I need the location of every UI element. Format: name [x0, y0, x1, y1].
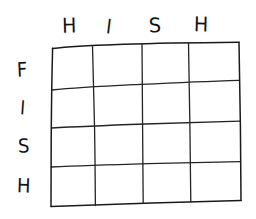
grid-cell-r4c4[interactable] — [191, 162, 240, 201]
grid-cell-r3c2[interactable] — [95, 127, 142, 165]
grid-cell-r3c1[interactable] — [52, 128, 94, 167]
puzzle-grid — [0, 0, 256, 219]
grid-cell-r1c3[interactable] — [143, 45, 189, 84]
grid-cell-r2c4[interactable] — [190, 82, 240, 122]
grid-cell-r4c1[interactable] — [51, 167, 94, 206]
grid-cell-r4c2[interactable] — [95, 165, 142, 205]
grid-cell-r4c3[interactable] — [143, 164, 190, 203]
grid-cell-r2c2[interactable] — [95, 87, 142, 126]
grid-cell-r1c4[interactable] — [190, 44, 239, 82]
grid-cell-r2c1[interactable] — [52, 89, 94, 127]
drawing-canvas: H I S H F I S H — [0, 0, 256, 219]
grid-cell-r3c4[interactable] — [190, 122, 240, 162]
grid-cell-r1c1[interactable] — [53, 47, 93, 87]
grid-cell-r2c3[interactable] — [143, 85, 189, 124]
grid-cell-r1c2[interactable] — [94, 46, 142, 86]
grid-cell-r3c3[interactable] — [143, 125, 189, 164]
